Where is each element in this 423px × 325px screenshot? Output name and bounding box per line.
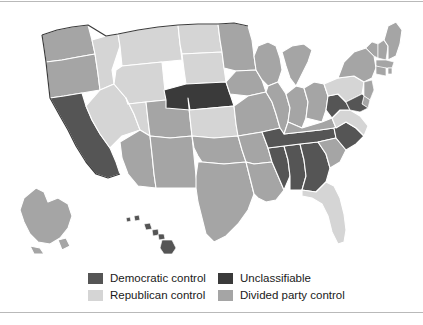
legend-label-republican: Republican control xyxy=(110,289,205,302)
legend-item-unclassifiable[interactable]: Unclassifiable xyxy=(218,270,345,287)
legend-swatch-divided xyxy=(218,290,233,301)
legend-item-democratic[interactable]: Democratic control xyxy=(88,270,206,287)
state-TX[interactable]: Texas — Divided party control xyxy=(196,162,254,242)
state-CT[interactable]: Connecticut — Divided party control xyxy=(376,66,386,76)
legend-swatch-democratic xyxy=(88,273,103,284)
state-ND[interactable]: North Dakota — Republican control xyxy=(178,24,222,54)
state-OR[interactable]: Oregon — Divided party control xyxy=(46,54,100,98)
legend-item-divided[interactable]: Divided party control xyxy=(218,287,345,304)
state-party-control-map-figure: Washington — Divided party control Orego… xyxy=(0,0,423,325)
state-MI[interactable]: Michigan — Divided party control xyxy=(282,44,312,86)
legend-swatch-unclassifiable xyxy=(218,273,233,284)
state-NY[interactable]: New York — Divided party control xyxy=(338,48,376,82)
state-FL[interactable]: Florida — Republican control xyxy=(302,182,346,244)
state-RI[interactable]: Rhode Island — Divided party control xyxy=(388,68,392,74)
state-NM[interactable]: New Mexico — Divided party control xyxy=(150,136,198,188)
state-SD[interactable]: South Dakota — Republican control xyxy=(182,52,226,84)
state-HI[interactable]: Hawaii — Democratic control Hawaii — Dem… xyxy=(126,215,176,254)
us-choropleth-map: Washington — Divided party control Orego… xyxy=(0,2,423,264)
state-OK[interactable]: Oklahoma — Divided party control xyxy=(192,136,246,164)
legend-label-unclassifiable: Unclassifiable xyxy=(240,272,311,285)
legend-swatch-republican xyxy=(88,290,103,301)
state-AK[interactable]: Alaska — Divided party control xyxy=(20,188,72,254)
legend-label-democratic: Democratic control xyxy=(110,272,206,285)
state-MT[interactable]: Montana — Republican control xyxy=(118,25,182,66)
legend-column-right: Unclassifiable Divided party control xyxy=(218,270,345,304)
map-legend: Democratic control Republican control Un… xyxy=(88,270,358,306)
legend-column-left: Democratic control Republican control xyxy=(88,270,206,304)
legend-item-republican[interactable]: Republican control xyxy=(88,287,206,304)
legend-label-divided: Divided party control xyxy=(240,289,345,302)
state-NE[interactable]: Nebraska — Unclassifiable xyxy=(164,82,234,110)
state-OH[interactable]: Ohio — Divided party control xyxy=(304,82,328,122)
state-MN[interactable]: Minnesota — Divided party control xyxy=(218,23,256,71)
figure-bottom-border xyxy=(0,312,423,313)
